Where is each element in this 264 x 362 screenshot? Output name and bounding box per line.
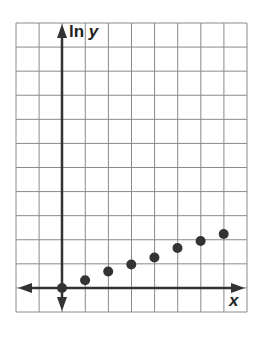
y-axis-down-arrow-icon (57, 297, 67, 311)
chart-plot (0, 0, 264, 362)
y-axis-label: ln y (69, 22, 98, 42)
data-points (57, 229, 229, 293)
x-axis-left-arrow-icon (18, 283, 32, 293)
y-axis-up-arrow-icon (57, 24, 67, 38)
y-axis-label-var: y (89, 22, 98, 41)
data-point (80, 275, 90, 285)
data-point (126, 260, 136, 270)
data-point (173, 243, 183, 253)
x-axis-label: x (229, 291, 238, 311)
data-point (196, 236, 206, 246)
data-point (219, 229, 229, 239)
y-axis-label-ln: ln (69, 22, 89, 41)
data-point (57, 283, 67, 293)
data-point (149, 252, 159, 262)
data-point (103, 267, 113, 277)
